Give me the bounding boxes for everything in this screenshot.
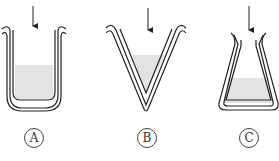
label-a: A	[24, 128, 44, 148]
container-a	[2, 6, 66, 111]
container-b	[106, 8, 186, 111]
container-c	[219, 6, 278, 110]
label-b: B	[137, 128, 157, 148]
liquid-a	[15, 65, 53, 99]
label-c: C	[239, 128, 259, 148]
